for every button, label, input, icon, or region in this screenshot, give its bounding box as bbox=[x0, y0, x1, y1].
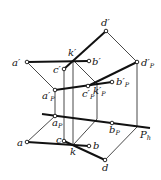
label-d-prime: d′ bbox=[101, 17, 110, 28]
label-k-prime: k′ bbox=[68, 47, 77, 58]
point-d-prime-p bbox=[135, 60, 139, 64]
label-b-prime-p: b′P bbox=[116, 76, 130, 89]
point-b bbox=[87, 144, 91, 148]
point-b-prime bbox=[87, 59, 91, 63]
label-k: k bbox=[70, 146, 76, 157]
point-b-prime-p bbox=[110, 80, 114, 84]
label-c-prime: c′ bbox=[53, 64, 62, 75]
point-a-prime-p bbox=[53, 88, 57, 92]
line-d-prime-to-d-prime-p bbox=[106, 31, 137, 62]
label-c: c bbox=[56, 134, 62, 145]
line-a-p-to-a bbox=[27, 116, 55, 142]
label-k-prime-p: k′P bbox=[93, 85, 106, 98]
point-a-prime bbox=[25, 60, 29, 64]
label-d: d bbox=[102, 162, 108, 173]
label-b-prime: b′ bbox=[92, 56, 101, 67]
point-a bbox=[25, 140, 29, 144]
label-a: a bbox=[17, 137, 23, 148]
label-a-p: aP bbox=[52, 117, 63, 130]
point-d-prime bbox=[104, 29, 108, 33]
label-plane-p: Ph bbox=[139, 129, 151, 142]
point-c-prime bbox=[62, 67, 66, 71]
label-a-prime-p: a′P bbox=[42, 90, 55, 103]
label-b: b bbox=[93, 140, 99, 151]
line-a-prime-to-a-prime-p bbox=[27, 62, 55, 90]
label-b-p: bP bbox=[109, 124, 120, 137]
label-d-prime-p: d′P bbox=[141, 57, 155, 70]
point-c bbox=[62, 139, 66, 143]
descriptive-geometry-diagram: d′ a′ k′ b′ c′ d′P b′P k′P a′P c′P aP bP… bbox=[0, 0, 161, 180]
line-a-prime-b-prime bbox=[27, 61, 89, 62]
label-a-prime: a′ bbox=[12, 57, 21, 68]
